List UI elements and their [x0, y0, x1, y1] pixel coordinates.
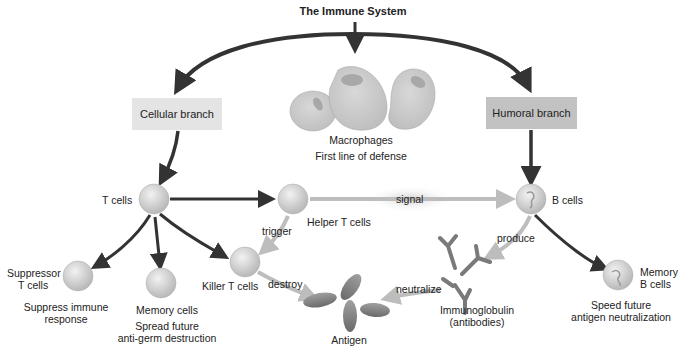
- suppressor-label-line2: T cells: [18, 279, 48, 292]
- memory-cells-label: Memory cells: [136, 304, 198, 317]
- memory-cell-illustration: [146, 268, 176, 298]
- killer-t-cell-illustration: [230, 247, 260, 277]
- b-cells-label: B cells: [552, 194, 583, 207]
- arrow-to-cellular: [178, 34, 352, 88]
- antigen-illustration: [302, 271, 391, 332]
- arrow-tcells-to-suppressor: [96, 215, 150, 266]
- memory-desc-line2: anti-germ destruction: [118, 332, 217, 345]
- arrow-tcells-to-killer: [160, 214, 224, 256]
- suppressor-t-cell-illustration: [63, 261, 93, 291]
- killer-t-cells-label: Killer T cells: [202, 280, 258, 293]
- macrophages-description: First line of defense: [315, 150, 407, 163]
- humoral-branch-label: Humoral branch: [492, 107, 570, 119]
- cellular-branch-box: Cellular branch: [132, 98, 222, 130]
- arrow-tcells-to-memory: [155, 217, 160, 265]
- antigen-label: Antigen: [331, 334, 367, 347]
- immunoglobulin-label-line2: (antibodies): [450, 316, 505, 329]
- arrow-cellular-to-tcells: [162, 131, 178, 180]
- memory-b-label-line2: B cells: [640, 278, 671, 291]
- destroy-label: destroy: [268, 278, 302, 291]
- macrophages-label: Macrophages: [329, 134, 393, 147]
- memory-b-desc-line2: antigen neutralization: [571, 311, 671, 324]
- t-cells-label: T cells: [102, 194, 132, 207]
- macrophages-illustration: [290, 66, 435, 131]
- produce-label: produce: [497, 232, 535, 245]
- neutralize-label: neutralize: [396, 283, 442, 296]
- humoral-branch-box: Humoral branch: [486, 97, 577, 129]
- t-cell-illustration: [139, 184, 169, 214]
- memory-b-cell-illustration: [603, 260, 633, 290]
- arrow-bcells-to-memoryb: [535, 215, 604, 268]
- suppressor-desc-line2: response: [44, 313, 87, 326]
- b-cell-illustration: [516, 184, 546, 214]
- signal-label: signal: [396, 193, 423, 206]
- arrow-to-humoral: [352, 34, 528, 86]
- antibody-icons: [440, 236, 490, 313]
- cellular-branch-label: Cellular branch: [140, 108, 214, 120]
- helper-t-cells-label: Helper T cells: [307, 216, 371, 229]
- trigger-label: trigger: [262, 225, 292, 238]
- diagram-title: The Immune System: [300, 5, 407, 18]
- helper-t-cell-illustration: [278, 184, 308, 214]
